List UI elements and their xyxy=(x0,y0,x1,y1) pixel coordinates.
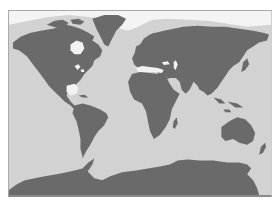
world-map xyxy=(8,10,272,197)
world-map-canvas xyxy=(9,11,271,195)
